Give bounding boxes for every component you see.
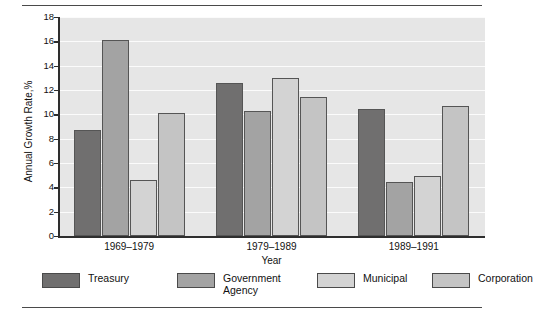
legend-label: Government Agency	[223, 272, 281, 296]
legend-item[interactable]: Corporation	[432, 272, 533, 288]
gridline	[58, 17, 485, 18]
legend-swatch-icon	[42, 273, 80, 288]
x-axis-tick-label: 1969–1979	[69, 241, 189, 252]
y-axis-line	[58, 17, 60, 236]
x-axis-tick-label: 1989–1991	[354, 241, 474, 252]
y-axis-tick-label: 18	[8, 12, 54, 22]
bar	[358, 109, 385, 236]
bar	[74, 130, 101, 236]
bar	[442, 106, 469, 236]
bar	[272, 78, 299, 236]
bar	[102, 40, 129, 236]
bar	[300, 97, 327, 236]
plot-area	[58, 17, 485, 236]
legend-label: Treasury	[88, 272, 129, 284]
legend-item[interactable]: Government Agency	[177, 272, 281, 296]
bar	[216, 83, 243, 236]
x-axis-title: Year	[58, 255, 485, 266]
y-axis-tick-label: 0	[8, 231, 54, 241]
x-axis-line	[58, 236, 485, 238]
legend-item[interactable]: Treasury	[42, 272, 129, 288]
x-axis-tick-label: 1979–1989	[212, 241, 332, 252]
bottom-divider-rule	[22, 307, 482, 308]
top-divider-rule	[22, 5, 482, 6]
bar	[158, 113, 185, 236]
legend-swatch-icon	[432, 273, 470, 288]
legend-label: Corporation	[478, 272, 533, 284]
bar	[386, 182, 413, 236]
legend-swatch-icon	[177, 273, 215, 288]
y-axis-title: Annual Growth Rate,%	[23, 42, 34, 222]
legend-label: Municipal	[363, 272, 407, 284]
bar	[130, 180, 157, 236]
bar	[414, 176, 441, 236]
chart-legend: TreasuryGovernment AgencyMunicipalCorpor…	[42, 272, 482, 304]
bar	[244, 111, 271, 236]
legend-swatch-icon	[317, 273, 355, 288]
legend-item[interactable]: Municipal	[317, 272, 407, 288]
